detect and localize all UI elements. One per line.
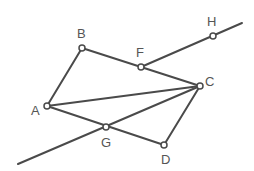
point-F-label: F: [136, 45, 144, 60]
segment-AB: [47, 48, 82, 106]
segment-CD: [164, 86, 200, 145]
point-C-marker: [197, 83, 203, 89]
point-D-marker: [161, 142, 167, 148]
point-G-label: G: [101, 135, 111, 150]
point-B-label: B: [77, 26, 86, 41]
point-A-label: A: [31, 103, 40, 118]
point-G-marker: [103, 124, 109, 130]
point-H-marker: [210, 33, 216, 39]
point-F-marker: [138, 64, 144, 70]
point-H-label: H: [207, 14, 216, 29]
geometry-diagram: ABFCHGD: [0, 0, 254, 171]
line-FH: [141, 23, 242, 67]
point-D-label: D: [161, 152, 170, 167]
point-C-label: C: [205, 74, 214, 89]
segments-group: [18, 23, 242, 164]
point-B-marker: [79, 45, 85, 51]
point-A-marker: [44, 103, 50, 109]
